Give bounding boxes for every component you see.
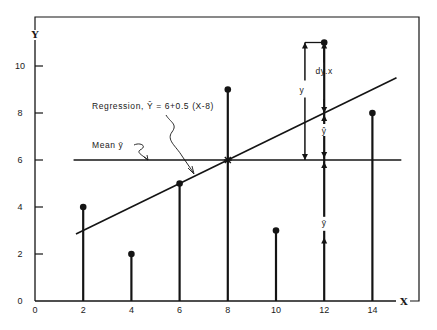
regression-chart: YX024681002468101214 Regression, Ŷ = 6+0…: [0, 0, 437, 330]
arrowhead-icon: [321, 152, 327, 158]
annotations: Regression, Ŷ = 6+0.5 (X-8)Mean ȳydy.xŷȳ: [92, 43, 333, 244]
data-stems: [83, 43, 372, 302]
ybar-label: ȳ: [322, 218, 327, 228]
mean-pointer: [134, 144, 148, 160]
y-tick-label: 6: [17, 155, 22, 165]
data-point: [273, 227, 280, 234]
arrowhead-icon: [302, 43, 308, 49]
y-tick-label: 10: [15, 61, 25, 71]
arrowhead-icon: [321, 162, 327, 168]
regression-pointer: [166, 115, 193, 172]
data-point: [369, 110, 376, 117]
y-tick-label: 4: [17, 202, 22, 212]
x-tick-label: 10: [271, 305, 281, 315]
axes: YX024681002468101214: [15, 29, 408, 315]
data-point: [80, 204, 87, 211]
x-tick-label: 2: [81, 305, 86, 315]
mean-label: Mean ȳ: [92, 140, 124, 150]
yhat-label: ŷ: [322, 126, 327, 136]
x-tick-label: 6: [177, 305, 182, 315]
arrowhead-icon: [321, 238, 327, 244]
x-tick-label: 8: [225, 305, 230, 315]
x-tick-label: 4: [129, 305, 134, 315]
dyx-label: dy.x: [316, 66, 334, 76]
y-tick-label: 2: [17, 249, 22, 259]
arrowhead-icon: [188, 166, 194, 174]
x-tick-label: 14: [367, 305, 377, 315]
data-point: [128, 251, 135, 258]
x-tick-label: 0: [32, 305, 37, 315]
y-axis-label: Y: [30, 29, 39, 40]
x-tick-label: 12: [319, 305, 329, 315]
arrowhead-icon: [321, 115, 327, 121]
y-tick-label: 8: [17, 108, 22, 118]
data-point: [321, 39, 328, 46]
arrowhead-icon: [302, 154, 308, 160]
x-axis-label: X: [400, 296, 408, 307]
y-tick-label: 0: [17, 296, 22, 306]
data-point: [176, 180, 183, 187]
regression-label: Regression, Ŷ = 6+0.5 (X-8): [92, 101, 214, 111]
y-label: y: [299, 85, 304, 95]
data-point: [225, 86, 232, 93]
